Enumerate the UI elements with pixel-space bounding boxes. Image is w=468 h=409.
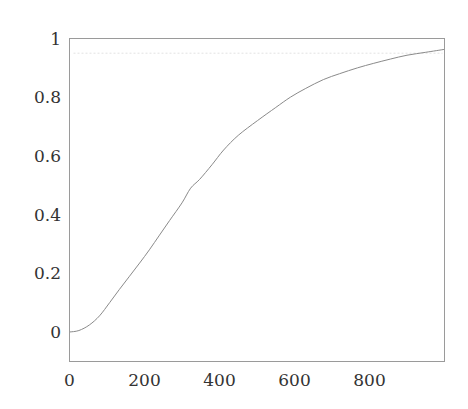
y-tick-label: 0.8 <box>34 87 61 107</box>
x-axis-tick-labels: 0200400600800 <box>64 370 386 390</box>
y-tick-label: 0.2 <box>34 263 61 283</box>
plot-frame <box>70 39 445 362</box>
y-axis-tick-labels: 00.20.40.60.81 <box>34 29 61 343</box>
y-tick-label: 1 <box>50 29 61 49</box>
line-chart: 00.20.40.60.81 0200400600800 <box>0 0 468 409</box>
x-tick-label: 600 <box>278 370 310 390</box>
y-tick-label: 0 <box>50 322 61 342</box>
x-tick-label: 800 <box>353 370 385 390</box>
y-tick-label: 0.4 <box>34 205 61 225</box>
y-tick-label: 0.6 <box>34 146 61 166</box>
x-tick-label: 200 <box>128 370 160 390</box>
x-tick-label: 400 <box>203 370 235 390</box>
x-tick-label: 0 <box>64 370 75 390</box>
data-curve <box>70 49 445 332</box>
